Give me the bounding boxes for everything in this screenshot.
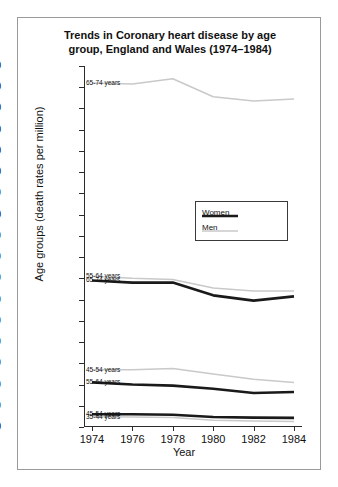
legend-swatch-women bbox=[202, 214, 238, 222]
y-tick-label: 16000 bbox=[0, 80, 1, 92]
y-tick-label: 1000 bbox=[0, 399, 1, 411]
series-annotation: 35-44 years bbox=[86, 413, 120, 421]
y-tick-label: 8000 bbox=[0, 250, 1, 262]
y-tick-label: 10000 bbox=[0, 208, 1, 220]
x-tick-label: 1984 bbox=[274, 433, 314, 445]
y-tick-label: 9000 bbox=[0, 229, 1, 241]
plot-area: 1700016000150001400013000120001100010000… bbox=[84, 66, 302, 427]
series-annotation: 45-54 years bbox=[86, 366, 120, 374]
y-tick-label: 6000 bbox=[0, 293, 1, 305]
y-tick-label: 3000 bbox=[0, 356, 1, 368]
series-line bbox=[92, 79, 294, 101]
x-tick-label: 1982 bbox=[234, 433, 274, 445]
x-tick-label: 1976 bbox=[112, 433, 152, 445]
y-tick-label: 11000 bbox=[0, 186, 1, 198]
chart-figure: Trends in Coronary heart disease by age … bbox=[17, 17, 321, 470]
x-tick-label: 1974 bbox=[72, 433, 112, 445]
series-annotation: 65-74 years bbox=[86, 79, 120, 87]
y-tick-label: 13000 bbox=[0, 144, 1, 156]
x-tick-label: 1978 bbox=[153, 433, 193, 445]
legend-item-women: Women bbox=[202, 208, 282, 220]
chart-title: Trends in Coronary heart disease by age … bbox=[30, 29, 310, 56]
y-tick-label: 14000 bbox=[0, 123, 1, 135]
y-tick-label: 17000 bbox=[0, 59, 1, 71]
legend-item-men: Men bbox=[202, 223, 282, 235]
y-tick-label: 0 bbox=[0, 420, 1, 432]
chart-title-line-2: group, England and Wales (1974–1984) bbox=[68, 43, 271, 55]
x-axis-label: Year bbox=[58, 446, 310, 458]
chart-title-line-1: Trends in Coronary heart disease by age bbox=[64, 29, 276, 41]
y-axis-label: Age groups (death rates per million) bbox=[33, 89, 45, 299]
y-tick-label: 12000 bbox=[0, 165, 1, 177]
series-line bbox=[92, 382, 294, 393]
y-tick-label: 2000 bbox=[0, 378, 1, 390]
x-tick-label: 1980 bbox=[193, 433, 233, 445]
series-annotation: 65-74 years bbox=[86, 276, 120, 284]
series-annotation: 55-64 years bbox=[86, 378, 120, 386]
y-tick-label: 5000 bbox=[0, 314, 1, 326]
legend-swatch-men bbox=[202, 229, 238, 237]
y-tick-label: 7000 bbox=[0, 271, 1, 283]
y-tick bbox=[79, 427, 84, 428]
y-tick-label: 15000 bbox=[0, 101, 1, 113]
series-line bbox=[92, 369, 294, 383]
y-tick-label: 4000 bbox=[0, 335, 1, 347]
chart-legend: Women Men bbox=[195, 201, 288, 241]
